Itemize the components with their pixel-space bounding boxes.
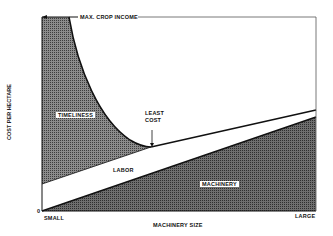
- timeliness-label: TIMELINESS: [56, 112, 95, 118]
- large-label: LARGE: [295, 213, 315, 219]
- least-cost-label-2: COST: [145, 117, 161, 123]
- max-crop-income-label: MAX. CROP INCOME: [80, 14, 138, 20]
- least-cost-label-1: LEAST: [145, 110, 164, 116]
- origin-label: 0: [37, 208, 40, 214]
- cost-diagram: [0, 0, 333, 236]
- machinery-label: MACHINERY: [200, 181, 239, 187]
- labor-label: LABOR: [113, 167, 134, 173]
- x-axis-label: MACHINERY SIZE: [153, 222, 203, 228]
- y-axis-label: COST PER HECTARE: [6, 84, 12, 140]
- small-label: SMALL: [44, 215, 64, 221]
